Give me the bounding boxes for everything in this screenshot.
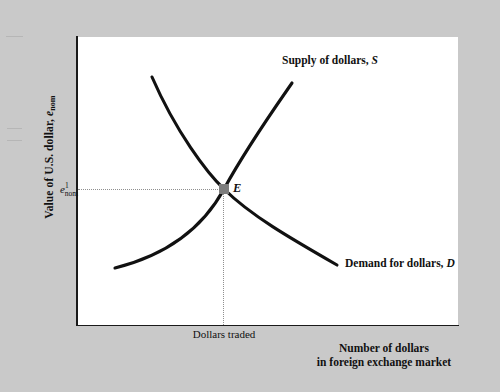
- x-axis-title-line-2: in foreign exchange market: [278, 355, 490, 369]
- equilibrium-point-marker: [219, 184, 229, 194]
- equilibrium-price-guide-line: [78, 189, 224, 190]
- figure-container: E Value of U.S. dollar, enom e1nom Suppl…: [0, 0, 500, 392]
- supply-curve-label-symbol: S: [371, 54, 377, 66]
- page-margin-mark: [6, 36, 23, 37]
- equilibrium-label: E: [233, 181, 241, 196]
- y-axis-title-subscript: nom: [48, 95, 57, 110]
- y-axis-tick-label: e1nom: [46, 181, 78, 198]
- demand-curve: [152, 77, 337, 265]
- x-axis-title-line-1: Number of dollars: [278, 341, 490, 355]
- equilibrium-quantity-guide-line: [223, 189, 224, 325]
- y-tick-subscript: nom: [65, 189, 78, 198]
- supply-curve: [115, 83, 292, 268]
- y-axis-title-symbol: e: [43, 111, 55, 116]
- x-axis: [76, 325, 459, 327]
- x-axis-title: Number of dollars in foreign exchange ma…: [278, 341, 490, 369]
- page-margin-mark: [7, 140, 22, 141]
- supply-curve-label: Supply of dollars, S: [282, 54, 378, 66]
- y-axis-title-text: Value of U.S. dollar,: [43, 116, 55, 219]
- demand-curve-label-symbol: D: [446, 257, 454, 269]
- page-margin-mark: [7, 128, 22, 129]
- x-axis-tick-label: Dollars traded: [159, 328, 289, 340]
- scan-artifact: [399, 278, 413, 302]
- demand-curve-label: Demand for dollars, D: [345, 257, 455, 269]
- demand-curve-label-text: Demand for dollars,: [345, 257, 446, 269]
- supply-curve-label-text: Supply of dollars,: [282, 54, 371, 66]
- y-axis-title: Value of U.S. dollar, enom: [43, 47, 57, 267]
